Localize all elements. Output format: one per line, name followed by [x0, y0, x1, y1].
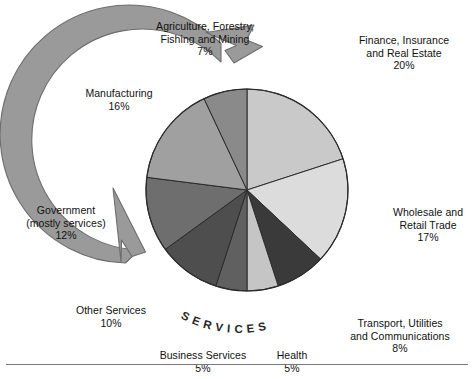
label-other-services-name: Other Services: [76, 304, 146, 316]
label-manufacturing-name: Manufacturing: [85, 87, 152, 99]
label-government-pct: 12%: [2, 229, 130, 241]
label-wholesale: Wholesale and Retail Trade 17%: [382, 194, 474, 256]
label-manufacturing: Manufacturing 16%: [56, 75, 182, 125]
label-agriculture-pct: 7%: [130, 45, 280, 57]
label-business-services-name: Business Services: [160, 349, 247, 361]
label-manufacturing-pct: 16%: [56, 100, 182, 112]
label-transport-pct: 8%: [326, 342, 474, 354]
label-health: Health 5%: [262, 337, 322, 379]
label-transport-name: Transport, Utilities and Communications: [350, 317, 450, 341]
label-other-services-pct: 10%: [50, 317, 172, 329]
services-ring-label: S E R V I C E S: [179, 309, 267, 335]
label-finance: Finance, Insurance and Real Estate 20%: [336, 22, 472, 84]
label-finance-pct: 20%: [336, 59, 472, 71]
label-wholesale-name: Wholesale and Retail Trade: [393, 206, 463, 230]
label-transport: Transport, Utilities and Communications …: [326, 305, 474, 367]
services-ring-label-text: S E R V I C E S: [179, 309, 267, 335]
label-government: Government (mostly services) 12%: [2, 192, 130, 254]
bottom-divider: [6, 364, 468, 365]
label-other-services: Other Services 10%: [50, 292, 172, 342]
label-health-name: Health: [277, 349, 308, 361]
label-business-services: Business Services 5%: [141, 337, 265, 379]
label-agriculture: Agriculture, Forestry, Fishing and Minin…: [130, 8, 280, 70]
label-finance-name: Finance, Insurance and Real Estate: [359, 34, 449, 58]
label-wholesale-pct: 17%: [382, 231, 474, 243]
pie-chart-figure: S E R V I C E S Agriculture, Forestry, F…: [0, 0, 474, 379]
label-government-name: Government (mostly services): [26, 204, 106, 228]
label-agriculture-name: Agriculture, Forestry, Fishing and Minin…: [156, 20, 254, 44]
